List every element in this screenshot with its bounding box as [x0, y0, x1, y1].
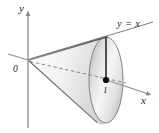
- cone-figure: y x 0 y = x 1: [0, 0, 159, 133]
- marked-point-dot: [103, 77, 109, 83]
- origin-label: 0: [13, 64, 18, 74]
- y-axis-label: y: [18, 2, 24, 14]
- line-equation-label: y = x: [116, 18, 140, 29]
- cone-diagram-canvas: y x 0 y = x 1: [0, 0, 159, 133]
- x-axis-label: x: [140, 94, 146, 106]
- marked-point-label: 1: [103, 85, 108, 95]
- z-axis-stub: [8, 54, 28, 60]
